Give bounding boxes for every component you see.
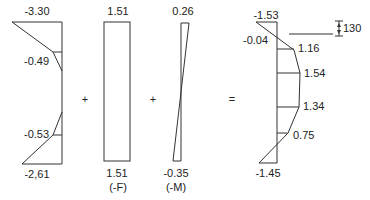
moment-top-label: 0.26 [172, 5, 193, 17]
moment-diagram: 0.26 -0.35 (-M) [163, 5, 193, 193]
left-lower-mid-label: -0.53 [24, 128, 49, 140]
result-top-label: -1.53 [253, 9, 278, 21]
left-top-label: -3.30 [24, 5, 49, 17]
left-stress-diagram: -3.30 -0.49 -0.53 -2,61 [12, 5, 62, 180]
result-stress-diagram: -1.53 -0.04 1.16 1.54 1.34 0.75 -1.45 13… [243, 9, 361, 179]
stress-diagram: -3.30 -0.49 -0.53 -2,61 + 1.51 1.51 (-F)… [0, 0, 370, 200]
result-value-4: 0.75 [293, 129, 314, 141]
dimension-label: 130 [343, 22, 361, 34]
axial-force-diagram: 1.51 1.51 (-F) [104, 5, 130, 193]
left-bottom-label: -2,61 [24, 168, 49, 180]
result-value-1: 1.16 [298, 42, 319, 54]
result-bottom-label: -1.45 [255, 167, 280, 179]
plus-operator-2: + [150, 93, 156, 105]
axial-top-label: 1.51 [107, 5, 128, 17]
result-value-3: 1.34 [303, 100, 324, 112]
moment-caption: (-M) [166, 181, 186, 193]
plus-operator-1: + [82, 93, 88, 105]
left-upper-mid-label: -0.49 [24, 55, 49, 67]
equals-operator: = [229, 93, 235, 105]
axial-bottom-label: 1.51 [106, 167, 127, 179]
result-left-label: -0.04 [243, 34, 268, 46]
result-value-2: 1.54 [304, 67, 325, 79]
moment-bottom-label: -0.35 [163, 167, 188, 179]
axial-caption: (-F) [109, 181, 127, 193]
dimension-marker: 130 [289, 21, 361, 36]
